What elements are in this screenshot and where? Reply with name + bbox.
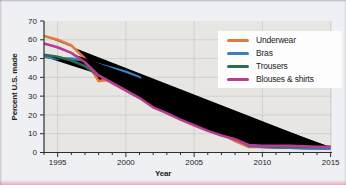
x-axis-title: Year [155,169,171,178]
y-tick-label: 70 [28,17,37,26]
y-tick-label: 60 [28,35,37,44]
chart-figure: 01020304050607019952000200520102015 Perc… [0,0,346,185]
photo-edge-top [0,0,346,2]
legend-label: Underwear [256,35,296,45]
x-tick-label: 2000 [117,158,135,167]
legend-item-underwear: Underwear [227,35,342,45]
legend-label: Bras [256,48,273,58]
photo-edge-bottom [0,180,346,185]
legend-swatch-underwear [227,39,249,42]
legend: UnderwearBrasTrousersBlouses & shirts [218,31,342,88]
photo-edge-left [0,0,2,185]
y-tick-label: 0 [33,148,38,157]
y-tick-label: 10 [28,129,37,138]
y-tick-label: 20 [28,111,37,120]
y-tick-label: 50 [28,54,37,63]
legend-swatch-trousers [227,65,249,68]
y-tick-label: 30 [28,92,37,101]
legend-item-blouses-shirts: Blouses & shirts [227,74,342,84]
x-tick-label: 1995 [49,158,67,167]
legend-item-bras: Bras [227,48,342,58]
legend-label: Trousers [256,61,288,71]
legend-label: Blouses & shirts [256,74,314,84]
legend-swatch-bras [227,52,249,55]
x-tick-label: 2015 [322,158,340,167]
line-chart-svg: 01020304050607019952000200520102015 [0,0,346,185]
y-axis-title: Percent U.S. made [10,54,19,121]
x-tick-label: 2010 [253,158,271,167]
y-tick-label: 40 [28,73,37,82]
legend-swatch-blouses-shirts [227,78,249,81]
x-tick-label: 2005 [185,158,203,167]
legend-item-trousers: Trousers [227,61,342,71]
